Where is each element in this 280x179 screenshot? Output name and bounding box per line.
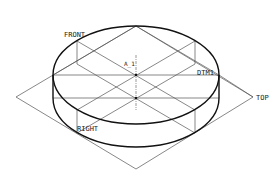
- top-datum-label[interactable]: TOP: [256, 94, 269, 102]
- axis-point-top: [135, 74, 137, 76]
- axis-point-bottom: [135, 97, 137, 99]
- front-datum-label[interactable]: FRONT: [64, 31, 85, 39]
- right-datum-label[interactable]: RIGHT: [77, 125, 98, 133]
- axis-a1-label[interactable]: A_1: [124, 60, 135, 68]
- cad-viewport[interactable]: [0, 0, 280, 179]
- construction-line: [136, 26, 219, 75]
- construction-line: [219, 75, 253, 97]
- dtm1-datum-label[interactable]: DTM1: [197, 69, 214, 77]
